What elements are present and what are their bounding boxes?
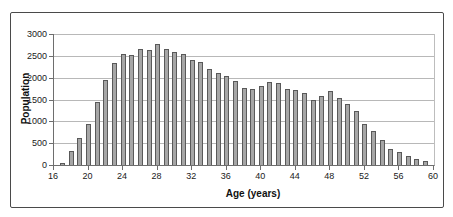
bar-age-58 [414,159,419,165]
x-tick-label-32: 32 [181,171,201,181]
y-tick-label-0: 0 [17,160,47,170]
bar-age-49 [337,98,342,165]
bar-age-21 [95,102,100,165]
bar-age-34 [207,69,212,165]
x-tick-mark-36 [226,166,227,170]
x-tick-label-56: 56 [388,171,408,181]
y-tick-mark-1000 [49,121,53,122]
bar-age-55 [388,149,393,165]
y-tick-mark-2500 [49,56,53,57]
bar-age-53 [371,131,376,165]
bar-age-31 [181,54,186,165]
y-tick-label-500: 500 [17,138,47,148]
plot-area [53,34,435,166]
bar-age-19 [77,138,82,165]
bar-age-57 [406,156,411,165]
x-tick-label-44: 44 [285,171,305,181]
x-tick-label-24: 24 [112,171,132,181]
x-tick-label-60: 60 [423,171,443,181]
bar-age-26 [138,49,143,165]
x-tick-mark-48 [329,166,330,170]
bar-age-59 [423,161,428,165]
gridline-2500 [54,56,434,57]
bar-age-23 [112,63,117,165]
bar-age-44 [293,90,298,165]
bar-age-28 [155,44,160,165]
bar-age-47 [319,96,324,165]
bar-age-50 [345,104,350,165]
y-axis-title: Population [20,59,31,139]
bar-age-52 [362,124,367,165]
x-tick-mark-56 [398,166,399,170]
bar-age-33 [198,62,203,165]
bar-age-38 [242,88,247,165]
bar-age-20 [86,124,91,165]
x-tick-mark-24 [122,166,123,170]
x-tick-label-48: 48 [319,171,339,181]
bar-age-36 [224,76,229,165]
y-tick-mark-500 [49,143,53,144]
bar-age-46 [311,100,316,165]
bar-age-39 [250,89,255,165]
bar-age-51 [354,111,359,165]
x-tick-mark-16 [53,166,54,170]
x-tick-label-52: 52 [354,171,374,181]
x-tick-mark-52 [364,166,365,170]
x-axis-title: Age (years) [153,188,353,199]
x-tick-label-20: 20 [78,171,98,181]
bar-age-27 [147,50,152,165]
x-tick-mark-60 [433,166,434,170]
x-tick-mark-20 [88,166,89,170]
y-tick-mark-3000 [49,34,53,35]
bar-age-35 [216,73,221,165]
bar-age-45 [302,93,307,165]
bar-age-17 [60,163,65,165]
bar-age-25 [129,55,134,165]
chart-frame: 050010001500200025003000 162024283236404… [10,12,444,208]
x-tick-mark-28 [157,166,158,170]
bar-age-29 [164,49,169,165]
bar-age-43 [285,89,290,165]
y-tick-label-3000: 3000 [17,29,47,39]
bar-age-37 [233,81,238,165]
y-tick-mark-2000 [49,78,53,79]
bar-age-48 [328,91,333,165]
bar-age-24 [121,54,126,165]
x-tick-mark-40 [260,166,261,170]
bar-age-30 [172,52,177,165]
bar-age-32 [190,60,195,165]
bar-age-22 [103,80,108,165]
bar-age-42 [276,83,281,165]
x-tick-label-16: 16 [43,171,63,181]
bar-age-56 [397,152,402,165]
bar-age-41 [267,82,272,165]
bar-age-54 [380,140,385,165]
x-tick-mark-44 [295,166,296,170]
bar-age-40 [259,86,264,165]
y-tick-mark-1500 [49,100,53,101]
x-tick-label-36: 36 [216,171,236,181]
x-tick-mark-32 [191,166,192,170]
bar-age-18 [69,151,74,165]
gridline-3000 [54,34,434,35]
x-tick-label-40: 40 [250,171,270,181]
x-tick-label-28: 28 [147,171,167,181]
